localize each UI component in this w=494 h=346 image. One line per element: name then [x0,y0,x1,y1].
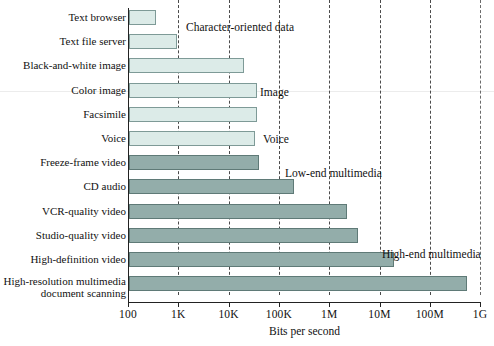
category-label-line1: High-resolution multimedia [3,276,126,288]
x-tick-label-1m: 1M [321,308,337,320]
gridline-10k [229,0,230,295]
category-label-6: Freeze-frame video [40,157,126,169]
category-label-1: Text file server [60,36,126,48]
data-rate-bar-chart: 1001K10K100K1M10M100M1G Text browserText… [0,0,494,346]
bar-9 [129,228,358,243]
bar-8 [129,204,347,219]
x-tick-label-100k: 100K [266,308,292,320]
gridline-100k [279,0,280,295]
x-tick-label-1k: 1K [171,308,185,320]
category-label-8: VCR-quality video [42,206,126,218]
bar-10 [129,252,394,267]
category-label-3: Color image [71,85,126,97]
annotation-low-end-multimedia: Low-end multimedia [285,167,382,179]
x-tick-label-100: 100 [119,308,137,320]
x-tick-label-1g: 1G [473,308,487,320]
bar-0 [129,10,156,25]
category-label-5: Voice [101,133,126,145]
gridline-1m [329,0,330,295]
x-tick-label-10m: 10M [368,308,390,320]
bar-2 [129,58,244,73]
gridline-10m [380,0,381,295]
annotation-image: Image [260,86,289,98]
bar-6 [129,155,259,170]
category-label-9: Studio-quality video [36,230,126,242]
x-tick-label-100m: 100M [416,308,444,320]
category-label-2: Black-and-white image [23,60,126,72]
bar-3 [129,83,257,98]
annotation-character-oriented-data: Character-oriented data [186,21,294,33]
bar-11 [129,276,467,291]
annotation-high-end-multimedia: High-end multimedia [382,248,481,260]
bar-1 [129,34,177,49]
gridline-1k [178,0,179,295]
category-label-10: High-definition video [30,254,126,266]
bar-4 [129,107,257,122]
category-label-11: High-resolution multimediadocument scann… [3,276,126,299]
x-tick-label-10k: 10K [218,308,238,320]
category-label-0: Text browser [68,12,126,24]
x-axis-title: Bits per second [128,325,481,337]
category-label-line2: document scanning [3,288,126,300]
x-axis-line [128,302,481,303]
category-label-4: Facsimile [83,109,126,121]
category-label-7: CD audio [84,181,126,193]
bar-7 [129,179,294,194]
bar-5 [129,131,255,146]
annotation-voice: Voice [263,133,289,145]
